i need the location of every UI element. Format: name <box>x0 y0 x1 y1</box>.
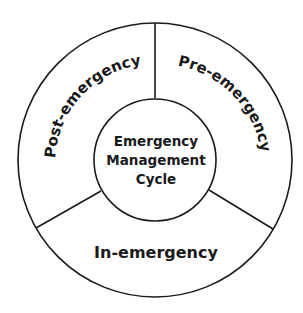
emergency-cycle-diagram: Post-emergency Pre-emergency In-emergenc… <box>0 0 303 313</box>
center-label-line-2: Management <box>106 152 206 168</box>
center-label-line-3: Cycle <box>136 171 177 187</box>
center-label-line-1: Emergency <box>114 133 199 149</box>
segment-label-in-emergency: In-emergency <box>94 243 218 262</box>
